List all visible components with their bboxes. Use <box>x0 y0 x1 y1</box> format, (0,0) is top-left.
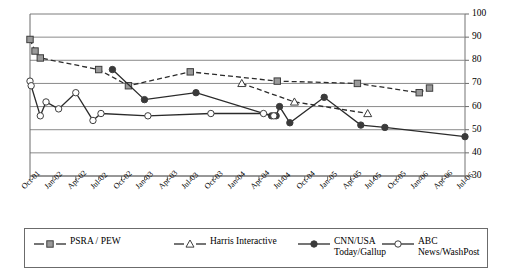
series-line <box>242 83 368 113</box>
y-tick-label: 100 <box>472 8 486 18</box>
data-point-triangle <box>364 110 372 117</box>
series-0 <box>27 36 433 96</box>
data-point-square <box>354 80 360 86</box>
data-point-circle <box>382 124 388 130</box>
data-point-triangle <box>186 240 194 247</box>
legend-label: Harris Interactive <box>210 236 277 247</box>
data-point-square <box>274 78 280 84</box>
data-point-square <box>32 48 38 54</box>
data-point-square <box>426 85 432 91</box>
legend-label: PSRA / PEW <box>70 236 121 247</box>
y-tick-label: 70 <box>472 77 482 87</box>
data-point-circle <box>73 89 79 95</box>
data-point-square <box>47 241 53 247</box>
legend-marker-icon <box>173 236 207 248</box>
legend-item-2[interactable]: CNN/USA Today/Gallup <box>297 236 386 257</box>
data-point-square <box>125 83 131 89</box>
data-point-square <box>95 66 101 72</box>
y-tick-label: 40 <box>472 147 482 157</box>
legend-label: CNN/USA Today/Gallup <box>334 236 386 257</box>
y-tick-label: 50 <box>472 124 482 134</box>
legend-item-0[interactable]: PSRA / PEW <box>33 236 121 248</box>
data-point-circle <box>287 120 293 126</box>
data-point-circle <box>90 117 96 123</box>
data-point-square <box>27 36 33 42</box>
data-point-circle <box>55 106 61 112</box>
data-point-circle <box>260 110 266 116</box>
series-line <box>112 70 465 137</box>
data-point-circle <box>98 110 104 116</box>
chart-legend: PSRA / PEWHarris InteractiveCNN/USA Toda… <box>24 228 488 268</box>
legend-item-3[interactable]: ABC News/WashPost <box>381 236 487 257</box>
legend-marker-icon <box>297 236 331 248</box>
data-point-circle <box>141 96 147 102</box>
legend-item-1[interactable]: Harris Interactive <box>173 236 277 248</box>
data-point-circle <box>462 133 468 139</box>
data-point-triangle <box>290 98 298 105</box>
series-2 <box>109 66 468 140</box>
data-point-circle <box>145 113 151 119</box>
y-tick-label: 90 <box>472 31 482 41</box>
data-point-circle <box>271 113 277 119</box>
chart-container: 30405060708090100 Oct-01Jan-02Apr-02Jul-… <box>0 0 510 272</box>
data-point-circle <box>321 94 327 100</box>
data-point-square <box>37 55 43 61</box>
data-point-circle <box>43 99 49 105</box>
y-tick-label: 80 <box>472 54 482 64</box>
data-point-circle <box>358 122 364 128</box>
data-point-circle <box>28 83 34 89</box>
data-point-circle <box>311 241 317 247</box>
y-tick-label: 60 <box>472 101 482 111</box>
data-point-circle <box>395 241 401 247</box>
series-line <box>30 39 430 92</box>
data-point-circle <box>276 103 282 109</box>
data-point-circle <box>37 113 43 119</box>
legend-label: ABC News/WashPost <box>418 236 487 257</box>
legend-marker-icon <box>33 236 67 248</box>
data-point-square <box>187 69 193 75</box>
legend-marker-icon <box>381 236 415 248</box>
data-point-circle <box>109 66 115 72</box>
data-point-circle <box>208 110 214 116</box>
data-point-circle <box>193 89 199 95</box>
data-point-square <box>416 89 422 95</box>
